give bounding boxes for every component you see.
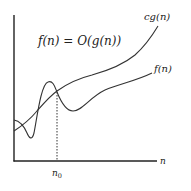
diagram-canvas: f(n) = O(g(n)) cg(n) f(n) n n0 — [0, 0, 191, 191]
big-o-diagram: f(n) = O(g(n)) cg(n) f(n) n n0 — [0, 0, 191, 191]
n0-label: n0 — [52, 168, 62, 180]
f-n-curve — [14, 73, 152, 138]
f-n-label: f(n) — [153, 63, 172, 74]
cg-n-label: cg(n) — [144, 11, 170, 22]
x-axis-label: n — [160, 156, 166, 166]
n0-label-subscript: 0 — [58, 172, 62, 180]
equation-label: f(n) = O(g(n)) — [37, 34, 122, 48]
